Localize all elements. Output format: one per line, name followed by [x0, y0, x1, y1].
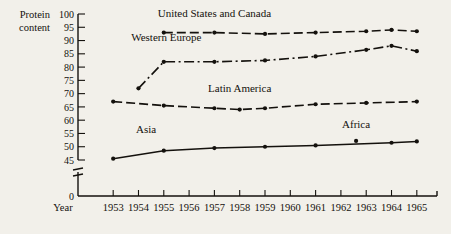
series-data-point — [314, 30, 318, 34]
series-data-point — [364, 48, 368, 52]
x-tick-label: 1957 — [204, 202, 225, 213]
y-tick-label-zero: 0 — [69, 191, 74, 202]
series-data-point — [415, 49, 419, 53]
y-axis-title-line2: content — [19, 22, 50, 33]
series-data-point — [162, 103, 166, 107]
series-data-point — [238, 107, 242, 111]
series-data-point — [415, 100, 419, 104]
series-data-point — [111, 157, 115, 161]
series-label: Latin America — [208, 82, 271, 94]
x-tick-label: 1964 — [381, 202, 403, 213]
protein-content-line-chart: Protein content 455055606570758085909510… — [0, 0, 451, 234]
series-data-point — [212, 146, 216, 150]
x-tick-label: 1959 — [255, 202, 276, 213]
x-tick-label: 1965 — [406, 202, 427, 213]
series-data-point — [389, 141, 393, 145]
y-axis-ticks: 45505560657075808590951000 — [59, 9, 85, 202]
series-data-point — [162, 60, 166, 64]
series-data-point — [263, 145, 267, 149]
axis-break-mark — [73, 168, 83, 170]
series-data-point — [354, 139, 358, 143]
y-axis-title: Protein content — [19, 9, 51, 33]
axis-lines — [73, 14, 437, 196]
series-data-point — [136, 86, 140, 90]
series-data-point — [364, 101, 368, 105]
series-data-point — [364, 29, 368, 33]
series-label: Asia — [136, 123, 156, 135]
series-data-point — [212, 60, 216, 64]
x-tick-label: 1961 — [305, 202, 326, 213]
x-axis-title: Year — [53, 202, 73, 213]
x-tick-label: 1958 — [229, 202, 250, 213]
series-data-point — [389, 44, 393, 48]
series-data-point — [314, 54, 318, 58]
x-tick-label: 1954 — [128, 202, 150, 213]
y-tick-label: 75 — [64, 75, 74, 86]
series-data-point — [111, 100, 115, 104]
series-data-point — [162, 149, 166, 153]
series-data-point — [415, 139, 419, 143]
chart-canvas: Protein content 455055606570758085909510… — [0, 0, 451, 234]
series-data-point — [263, 32, 267, 36]
series-data-point — [314, 102, 318, 106]
x-tick-label: 1956 — [179, 202, 200, 213]
y-tick-label: 50 — [64, 141, 74, 152]
x-tick-label: 1955 — [153, 202, 174, 213]
series-labels: United States and CanadaWestern EuropeLa… — [131, 7, 370, 136]
y-tick-label: 70 — [64, 88, 74, 99]
y-tick-label: 45 — [64, 155, 74, 166]
series-label: Western Europe — [131, 31, 201, 43]
series-line — [113, 141, 417, 158]
y-axis-title-line1: Protein — [20, 9, 51, 20]
x-tick-label: 1953 — [103, 202, 124, 213]
series-line — [138, 46, 416, 88]
y-tick-label: 65 — [64, 102, 74, 113]
series-data-point — [263, 58, 267, 62]
y-tick-label: 85 — [64, 48, 74, 59]
series-data-point — [212, 30, 216, 34]
series-label: Africa — [342, 118, 370, 130]
series-data-point — [314, 143, 318, 147]
y-tick-label: 95 — [64, 22, 74, 33]
x-tick-label: 1962 — [330, 202, 351, 213]
series-data-point — [263, 106, 267, 110]
series-data-point — [415, 29, 419, 33]
y-tick-label: 60 — [64, 115, 74, 126]
y-tick-label: 55 — [64, 128, 74, 139]
y-tick-label: 80 — [64, 62, 74, 73]
series-data-point — [212, 106, 216, 110]
y-tick-label: 90 — [64, 35, 74, 46]
series-line — [164, 30, 417, 34]
y-tick-label: 100 — [59, 9, 74, 20]
x-axis-ticks: 1953195419551956195719581959196019611962… — [103, 190, 428, 213]
x-tick-label: 1963 — [356, 202, 377, 213]
x-tick-label: 1960 — [280, 202, 301, 213]
series-data-point — [389, 28, 393, 32]
series-label: United States and Canada — [158, 7, 271, 19]
axis-break-mark — [73, 174, 83, 176]
